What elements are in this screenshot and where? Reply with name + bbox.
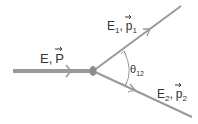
outgoing-particle-1-line — [93, 6, 181, 71]
outgoing-1-label: E1,p1 — [107, 19, 138, 35]
angle-arc — [124, 51, 129, 86]
vertex-dot — [90, 66, 97, 76]
outgoing-2-label: E2,p2 — [157, 87, 188, 103]
incoming-label: E,P — [40, 51, 64, 66]
angle-arc-arrow-top-icon — [121, 51, 126, 55]
angle-label: θ12 — [130, 63, 144, 77]
decay-diagram: E,P E1,p1 E2,p2 θ12 — [0, 0, 198, 124]
